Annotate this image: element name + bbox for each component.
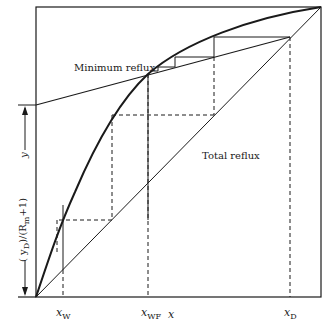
x-axis-label: x <box>168 308 174 321</box>
minimum-reflux-label: Minimum reflux <box>74 62 155 73</box>
mccabe-thiele-diagram <box>0 0 329 328</box>
intercept-label: ( yD)/(Rm+1) <box>17 198 28 262</box>
total-reflux-line <box>36 7 321 297</box>
x-tick-xw: xW <box>56 306 70 319</box>
y-axis-label: y <box>18 152 29 158</box>
x-tick-xwf: xWF <box>141 306 161 319</box>
x-tick-xd: xD <box>284 306 297 319</box>
total-reflux-label: Total reflux <box>202 150 260 161</box>
